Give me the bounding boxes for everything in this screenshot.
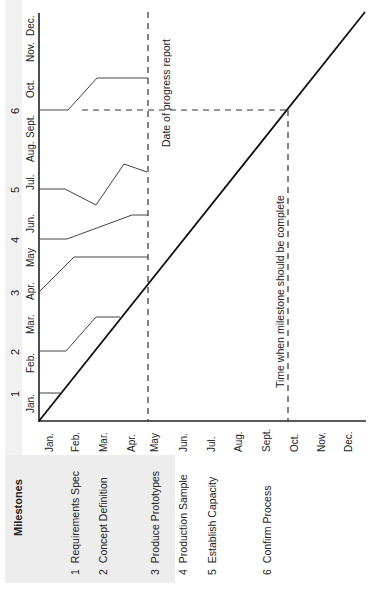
milestone-item-3: 3Produce Prototypes	[149, 471, 161, 575]
completion-tick-jan: Jan.	[25, 394, 36, 413]
milestone-item-1: 1Requirements Spec	[69, 471, 81, 575]
milestone-item-2: 2Concept Definition	[97, 477, 109, 575]
diagonal-completion-line	[39, 12, 365, 421]
progress-report-annotation: Date of progress report	[160, 39, 172, 147]
milestone-item-4: 4Production Sample	[177, 474, 189, 575]
completion-tick-sept: Sept.	[25, 115, 36, 138]
marker-6: 6	[9, 108, 21, 114]
report-tick-feb: Feb.	[70, 432, 81, 452]
slip-line-3-produce-prototypes	[39, 257, 148, 292]
marker-5: 5	[9, 187, 21, 193]
marker-4: 4	[9, 237, 21, 243]
report-tick-jun: Jun.	[178, 433, 189, 452]
completion-tick-may: May	[25, 248, 36, 267]
slip-line-4-production-sample	[39, 215, 148, 239]
completion-tick-apr: Apr.	[25, 282, 36, 300]
report-tick-apr: Apr.	[126, 434, 137, 452]
completion-tick-feb: Feb.	[25, 353, 36, 373]
completion-tick-aug: Aug.	[25, 141, 36, 162]
marker-2: 2	[9, 349, 21, 355]
report-tick-oct: Oct.	[289, 434, 300, 452]
report-tick-may: May	[149, 433, 160, 452]
completion-annotation: Time when milestone should be complete	[274, 195, 286, 388]
completion-tick-oct: Oct.	[25, 80, 36, 98]
report-date-axis-ticks: Jan. Feb. Mar. Apr. May Jun. Jul. Aug. S…	[44, 429, 354, 452]
completion-axis-ticks: Jan. Feb. Mar. Apr. May Jun. Jul. Aug. S…	[25, 15, 36, 413]
completion-tick-nov: Nov.	[25, 42, 36, 62]
completion-tick-jul: Jul.	[25, 174, 36, 190]
milestone-item-6: 6Confirm Process	[261, 486, 273, 575]
milestone-slip-chart: Jan. Feb. Mar. Apr. May Jun. Jul. Aug. S…	[0, 0, 381, 590]
report-tick-dec: Dec.	[343, 431, 354, 452]
report-tick-mar: Mar.	[98, 433, 109, 452]
marker-3: 3	[9, 290, 21, 296]
completion-tick-dec: Dec.	[25, 15, 36, 36]
marker-1: 1	[9, 391, 21, 397]
completion-tick-mar: Mar.	[25, 315, 36, 334]
report-tick-jul: Jul.	[206, 436, 217, 452]
completion-axis-band	[5, 0, 22, 455]
slip-line-5-establish-capacity	[39, 164, 147, 205]
slip-line-6-confirm-process	[39, 78, 148, 110]
report-tick-aug: Aug.	[233, 431, 244, 452]
report-tick-sept: Sept.	[261, 429, 272, 452]
report-tick-nov: Nov.	[316, 432, 327, 452]
milestones-header: Milestones	[12, 479, 24, 536]
milestone-item-5: 5Establish Capacity	[206, 476, 218, 575]
completion-tick-jun: Jun.	[25, 214, 36, 233]
report-tick-jan: Jan.	[44, 433, 55, 452]
